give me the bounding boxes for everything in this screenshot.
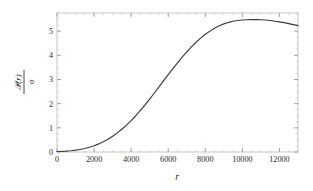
x-tick-label: 8000: [197, 155, 213, 164]
y-axis-title-denominator: σ: [26, 79, 36, 84]
plot-canvas: 020004000600080001000012000 012345 r 𝒫(r…: [0, 0, 313, 191]
y-tick-label: 0: [49, 148, 53, 157]
x-tick-label: 2000: [86, 155, 102, 164]
y-tick-label: 1: [49, 124, 53, 133]
x-tick-label: 6000: [160, 155, 176, 164]
y-tick-label: 5: [49, 27, 53, 36]
y-tick-label: 3: [49, 75, 53, 84]
x-tick-label: 0: [55, 155, 59, 164]
y-axis-title-numerator: 𝒫(r): [13, 74, 23, 90]
x-tick-label: 4000: [123, 155, 139, 164]
chart-figure: 020004000600080001000012000 012345 r 𝒫(r…: [0, 0, 313, 191]
y-tick-label: 2: [49, 100, 53, 109]
y-tick-label: 4: [49, 51, 53, 60]
x-axis-title: r: [175, 172, 179, 182]
figure-background: [0, 0, 313, 191]
x-tick-label: 10000: [232, 155, 252, 164]
x-tick-label: 12000: [269, 155, 289, 164]
